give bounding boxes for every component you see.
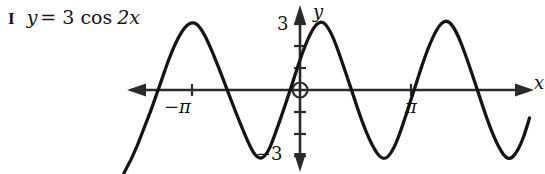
graph-figure: I y=3cos2x [0, 0, 545, 174]
x-axis-right-arrowhead [515, 84, 534, 97]
x-axis-label: x [534, 72, 544, 93]
y-axis-label: y [313, 1, 323, 22]
y-max-tick-label: 3 [277, 13, 288, 34]
y-min-tick-label: −3 [256, 143, 283, 164]
x-pi-tick-label: π [405, 96, 417, 117]
x-axis-left-arrowhead [127, 84, 146, 97]
y-axis-top-arrowhead [294, 5, 306, 24]
x-neg-pi-tick-label: −π [164, 96, 191, 117]
